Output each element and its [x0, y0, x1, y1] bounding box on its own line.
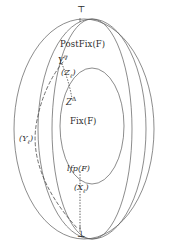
bottom-element-label: ⊥: [77, 230, 86, 239]
z-sequence-open: (Z: [61, 68, 70, 77]
delta-icon: Δ: [72, 96, 76, 102]
y-sequence-label: (Yℓ): [19, 135, 33, 145]
z-sequence-close: ): [72, 68, 75, 77]
y-sequence-open: (Y: [19, 134, 28, 143]
lattice-outer-ellipse: [14, 19, 154, 239]
top-element-label: ⊤: [77, 5, 86, 14]
x-sequence-close: ): [86, 183, 89, 192]
x-sequence-label: (Xℓ): [74, 184, 89, 194]
nabla-icon: ∇: [64, 55, 68, 61]
postfix-ellipse: [52, 19, 132, 239]
y-sequence-dashed-path: [35, 62, 78, 229]
y-sequence-close: ): [30, 134, 33, 143]
x-sequence-open: (X: [74, 183, 83, 192]
z-sequence-label: (Zℓ): [61, 69, 76, 79]
fix-region-label: Fix(F): [70, 117, 97, 126]
postfix-outer-ellipse: [38, 19, 146, 239]
lfp-label: lfp(F): [67, 165, 90, 173]
y-nabla-label: Y∇: [58, 56, 68, 65]
postfix-region-label: PostFix(F): [60, 40, 105, 49]
lattice-fixed-point-figure: ⊤ PostFix(F) Y∇ (Zℓ) ZΔ Fix(F) (Yℓ) lfp(…: [0, 0, 169, 248]
z-delta-label: ZΔ: [66, 97, 76, 106]
